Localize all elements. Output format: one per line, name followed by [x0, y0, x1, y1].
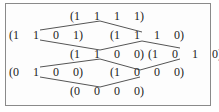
- node-1111: (1 1 1 1): [70, 10, 144, 22]
- node-0000: (0 0 0 0): [70, 85, 144, 97]
- node-0100: (0 1 0 0): [9, 66, 83, 78]
- node-1000: (1 0 0 0): [110, 66, 184, 78]
- node-1101: (1 1 0 1): [9, 29, 83, 41]
- node-1110: (1 1 1 0): [110, 29, 184, 41]
- node-1100: (1 1 0 0): [70, 48, 144, 60]
- node-1010: (1 0 1 0): [148, 48, 219, 60]
